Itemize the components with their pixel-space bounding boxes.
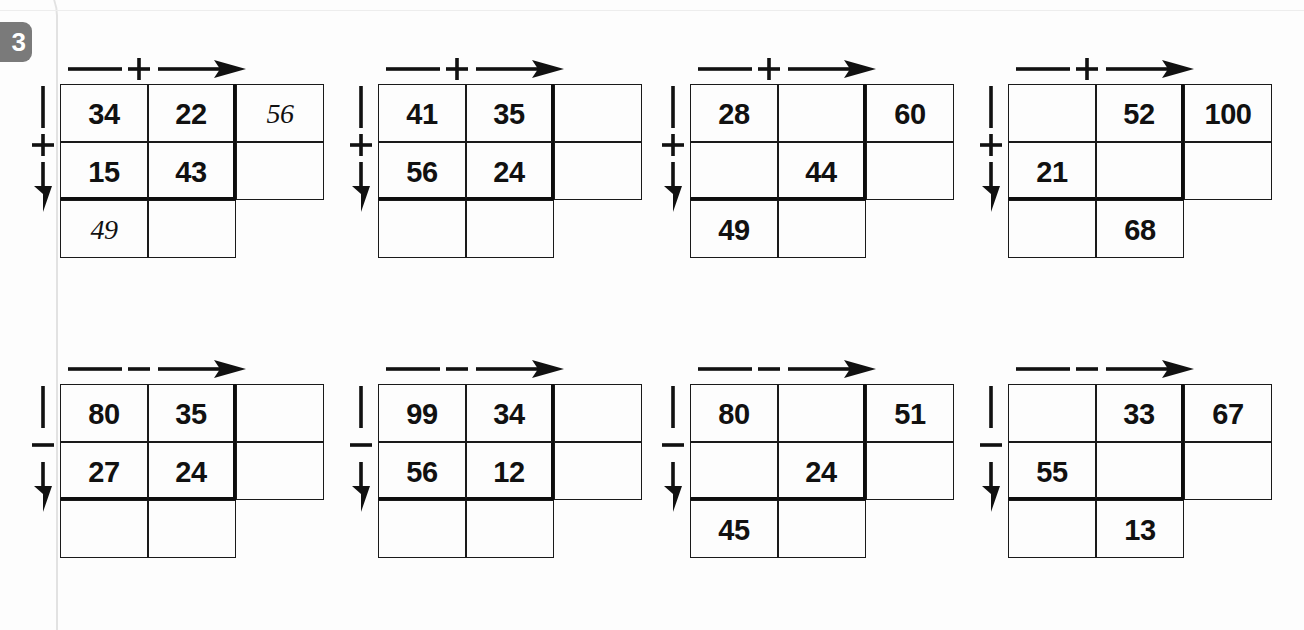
cell-r2c3-row-result[interactable] xyxy=(236,442,324,500)
column-operator-arrow-plus xyxy=(978,86,1004,214)
cell-r2c3-row-result[interactable] xyxy=(554,442,642,500)
cell-r2c1-operand[interactable]: 21 xyxy=(1008,142,1096,200)
cell-r1c1-operand[interactable]: 41 xyxy=(378,84,466,142)
cell-r2c2-operand[interactable] xyxy=(1096,142,1184,200)
row-operator-arrow-minus xyxy=(1016,356,1206,382)
cell-r1c1-operand[interactable]: 80 xyxy=(690,384,778,442)
cell-r2c2-operand[interactable]: 43 xyxy=(148,142,236,200)
cell-r2c2-operand[interactable] xyxy=(1096,442,1184,500)
cell-value: 12 xyxy=(467,443,551,501)
column-operator-arrow-minus xyxy=(348,386,374,514)
number-grid: 80512445 xyxy=(690,384,954,560)
cell-r1c1-operand[interactable]: 80 xyxy=(60,384,148,442)
cell-value: 56 xyxy=(379,143,465,201)
cell-r1c2-operand[interactable]: 33 xyxy=(1096,384,1184,442)
cell-r1c3-row-result[interactable]: 56 xyxy=(236,84,324,142)
cell-r2c2-operand[interactable]: 44 xyxy=(778,142,866,200)
cell-r3c1-column-result[interactable]: 45 xyxy=(690,500,778,558)
cell-value: 21 xyxy=(1009,143,1095,201)
cell-value: 34 xyxy=(61,85,147,143)
cell-r3c2-column-result[interactable] xyxy=(778,200,866,258)
cell-value: 41 xyxy=(379,85,465,143)
column-operator-arrow-minus xyxy=(978,386,1004,514)
row-operator-arrow-plus xyxy=(1016,56,1206,82)
cell-r2c3-row-result[interactable] xyxy=(866,142,954,200)
cell-value: 99 xyxy=(379,385,465,443)
cell-r2c1-operand[interactable] xyxy=(690,142,778,200)
cell-r3c2-column-result[interactable] xyxy=(148,200,236,258)
cell-r2c1-operand[interactable]: 55 xyxy=(1008,442,1096,500)
cell-value: 35 xyxy=(149,385,233,443)
cell-r1c1-operand[interactable]: 99 xyxy=(378,384,466,442)
cell-r1c2-operand[interactable] xyxy=(778,84,866,142)
cell-r2c1-operand[interactable]: 15 xyxy=(60,142,148,200)
cell-r1c2-operand[interactable]: 52 xyxy=(1096,84,1184,142)
cell-r2c3-row-result[interactable] xyxy=(866,442,954,500)
cell-r2c1-operand[interactable]: 56 xyxy=(378,442,466,500)
cell-r2c1-operand[interactable]: 27 xyxy=(60,442,148,500)
cell-r2c2-operand[interactable]: 24 xyxy=(148,442,236,500)
cell-r2c2-operand[interactable]: 24 xyxy=(466,142,554,200)
column-operator-arrow-plus xyxy=(660,86,686,214)
cell-value: 49 xyxy=(61,201,147,259)
cell-r3c2-column-result[interactable]: 68 xyxy=(1096,200,1184,258)
cell-r3c1-column-result[interactable] xyxy=(60,500,148,558)
cell-r1c1-operand[interactable] xyxy=(1008,84,1096,142)
cell-r1c3-row-result[interactable] xyxy=(554,384,642,442)
cell-r1c3-row-result[interactable]: 100 xyxy=(1184,84,1272,142)
cell-r3c1-column-result[interactable] xyxy=(378,200,466,258)
row-operator-arrow-minus xyxy=(386,356,576,382)
cell-value: 51 xyxy=(867,385,953,443)
cell-r3c1-column-result[interactable]: 49 xyxy=(60,200,148,258)
cell-value: 44 xyxy=(779,143,863,201)
cell-r1c3-row-result[interactable]: 60 xyxy=(866,84,954,142)
cell-value: 56 xyxy=(237,85,323,143)
row-operator-arrow-plus xyxy=(386,56,576,82)
cell-value: 45 xyxy=(691,501,777,559)
cell-value: 27 xyxy=(61,443,147,501)
cell-r1c3-row-result[interactable]: 51 xyxy=(866,384,954,442)
cell-r1c1-operand[interactable] xyxy=(1008,384,1096,442)
cell-value: 56 xyxy=(379,443,465,501)
cell-r3c2-column-result[interactable] xyxy=(466,200,554,258)
cell-value: 15 xyxy=(61,143,147,201)
cell-r1c2-operand[interactable]: 22 xyxy=(148,84,236,142)
cell-r1c2-operand[interactable]: 35 xyxy=(148,384,236,442)
cell-r1c2-operand[interactable]: 34 xyxy=(466,384,554,442)
cell-r1c2-operand[interactable]: 35 xyxy=(466,84,554,142)
cell-r2c3-row-result[interactable] xyxy=(1184,442,1272,500)
cell-r1c2-operand[interactable] xyxy=(778,384,866,442)
cell-r2c2-operand[interactable]: 24 xyxy=(778,442,866,500)
cell-r3c2-column-result[interactable]: 13 xyxy=(1096,500,1184,558)
cell-r2c3-row-result[interactable] xyxy=(554,142,642,200)
cell-value: 80 xyxy=(61,385,147,443)
cell-r3c2-column-result[interactable] xyxy=(466,500,554,558)
cell-r3c2-column-result[interactable] xyxy=(148,500,236,558)
number-grid: 342256154349 xyxy=(60,84,324,260)
cell-r3c1-column-result[interactable]: 49 xyxy=(690,200,778,258)
cell-value: 80 xyxy=(691,385,777,443)
cell-r3c1-column-result[interactable] xyxy=(1008,200,1096,258)
cell-r1c1-operand[interactable]: 34 xyxy=(60,84,148,142)
column-operator-arrow-minus xyxy=(660,386,686,514)
cell-r3c1-column-result[interactable] xyxy=(1008,500,1096,558)
cell-r1c3-row-result[interactable] xyxy=(236,384,324,442)
number-grid: 99345612 xyxy=(378,384,642,560)
cell-value: 52 xyxy=(1097,85,1181,143)
row-operator-arrow-minus xyxy=(68,356,258,382)
cell-r1c3-row-result[interactable] xyxy=(554,84,642,142)
column-operator-arrow-plus xyxy=(30,86,56,214)
cell-r2c3-row-result[interactable] xyxy=(236,142,324,200)
cell-value: 28 xyxy=(691,85,777,143)
cell-r2c2-operand[interactable]: 12 xyxy=(466,442,554,500)
number-grid: 521002168 xyxy=(1008,84,1272,260)
cell-r1c1-operand[interactable]: 28 xyxy=(690,84,778,142)
cell-r2c1-operand[interactable] xyxy=(690,442,778,500)
cell-value: 100 xyxy=(1185,85,1271,143)
cell-r2c3-row-result[interactable] xyxy=(1184,142,1272,200)
cell-r2c1-operand[interactable]: 56 xyxy=(378,142,466,200)
cell-r1c3-row-result[interactable]: 67 xyxy=(1184,384,1272,442)
cell-r3c1-column-result[interactable] xyxy=(378,500,466,558)
cell-r3c2-column-result[interactable] xyxy=(778,500,866,558)
